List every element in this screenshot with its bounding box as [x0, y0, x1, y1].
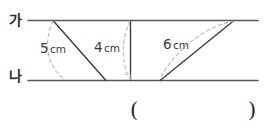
length-value-middle: 4 — [94, 39, 103, 55]
label-line-bottom: 나 — [9, 69, 22, 83]
length-unit-left: cm — [50, 43, 66, 55]
length-label-left: 5cm — [40, 42, 66, 56]
length-label-right: 6cm — [163, 38, 189, 52]
label-line-top: 가 — [9, 13, 22, 27]
length-value-left: 5 — [40, 40, 49, 56]
length-value-right: 6 — [163, 36, 172, 52]
arc-middle — [123, 21, 130, 79]
length-unit-middle: cm — [104, 42, 120, 54]
length-unit-right: cm — [173, 39, 189, 51]
diagram-canvas: 가 나 5cm 4cm 6cm ( ) — [0, 0, 274, 128]
right-angle-mark — [124, 74, 130, 80]
answer-open-paren: ( — [130, 100, 138, 121]
length-label-middle: 4cm — [94, 41, 120, 55]
answer-close-paren: ) — [248, 100, 256, 121]
